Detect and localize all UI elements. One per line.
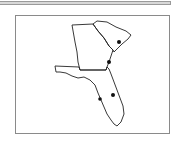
south-carolina-outline [93,21,131,52]
georgia-outline [72,24,113,70]
marker-icon [107,60,111,64]
marker-icon [117,40,121,44]
marker-icon [98,97,102,101]
marker-icon [111,93,115,97]
map-svg [0,0,179,143]
